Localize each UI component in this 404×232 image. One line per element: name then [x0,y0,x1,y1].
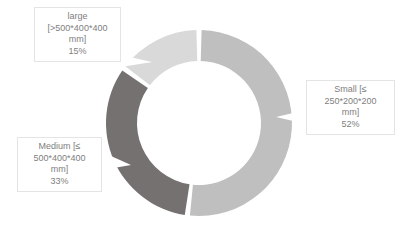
callout-small-line2: 250*200*200 [309,96,392,108]
donut-slice-small[interactable] [190,30,292,216]
callout-medium-line2: 500*400*400 [20,153,99,165]
donut-slice-large[interactable] [125,30,197,85]
donut-chart: large [>500*400*400 mm] 15% Small [≤ 250… [0,0,404,232]
callout-small-line3: mm] [309,107,392,119]
callout-large-percent: 15% [37,46,118,58]
donut-slice-medium[interactable] [106,70,190,214]
callout-large-line2: [>500*400*400 [37,23,118,35]
callout-medium[interactable]: Medium [≤ 500*400*400 mm] 33% [17,137,102,192]
callout-small-line1: Small [≤ [309,84,392,96]
callout-large[interactable]: large [>500*400*400 mm] 15% [34,7,121,62]
callout-small-percent: 52% [309,119,392,131]
callout-medium-percent: 33% [20,176,99,188]
callout-medium-line3: mm] [20,164,99,176]
callout-medium-line1: Medium [≤ [20,141,99,153]
callout-large-line3: mm] [37,34,118,46]
callout-small[interactable]: Small [≤ 250*200*200 mm] 52% [306,80,395,135]
callout-large-line1: large [37,11,118,23]
